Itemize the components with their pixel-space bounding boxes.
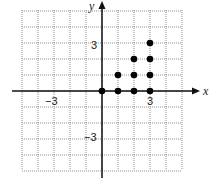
data-point [131,88,138,95]
y-axis-arrow-icon [99,1,106,9]
data-point [147,72,154,79]
data-point [99,88,106,95]
data-point [131,72,138,79]
x-axis-arrow-icon [192,88,200,95]
y-axis-label: y [88,0,95,13]
data-point [147,40,154,47]
data-points [99,40,154,95]
x-tick-3: 3 [147,95,153,107]
x-tick-neg3: −3 [45,95,58,107]
y-tick-neg3: −3 [84,131,97,143]
y-tick-3: 3 [91,39,97,51]
x-axis-label: x [202,84,209,98]
data-point [131,56,138,63]
data-point [147,56,154,63]
data-point [115,88,122,95]
coordinate-plane: x y −3 3 3 −3 [0,0,218,189]
data-point [147,88,154,95]
data-point [115,72,122,79]
